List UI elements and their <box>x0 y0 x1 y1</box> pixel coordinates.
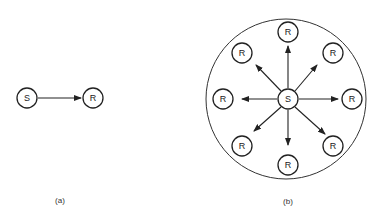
diagram-canvas: S R (a) S R R <box>0 0 384 216</box>
receiver-node: R <box>83 88 103 108</box>
receiver-label: R <box>239 48 246 58</box>
receiver-node-bottom-left: R <box>232 136 252 156</box>
caption-a: (a) <box>55 196 65 205</box>
receiver-node-top: R <box>278 22 298 42</box>
receiver-node-bottom-right: R <box>323 136 343 156</box>
receiver-node-top-left: R <box>232 43 252 63</box>
diagram-b: S R R R R R R R <box>206 19 366 206</box>
receiver-label: R <box>220 94 227 104</box>
source-label: S <box>24 93 30 103</box>
source-node: S <box>278 89 298 109</box>
receiver-label: R <box>90 93 97 103</box>
receiver-label: R <box>239 141 246 151</box>
source-node: S <box>17 88 37 108</box>
receiver-label: R <box>330 141 337 151</box>
arrow-to-top-left <box>256 65 281 91</box>
receiver-node-left: R <box>213 89 233 109</box>
arrow-to-bottom-left <box>254 107 281 131</box>
receiver-label: R <box>330 48 337 58</box>
caption-b: (b) <box>283 197 293 206</box>
receiver-label: R <box>349 94 356 104</box>
receiver-node-top-right: R <box>323 43 343 63</box>
arrow-to-bottom-right <box>295 107 325 134</box>
source-label: S <box>285 94 291 104</box>
arrow-to-top-right <box>295 65 317 91</box>
receiver-label: R <box>285 27 292 37</box>
receiver-node-right: R <box>342 89 362 109</box>
diagram-a: S R (a) <box>17 88 103 205</box>
receiver-label: R <box>285 160 292 170</box>
receiver-node-bottom: R <box>278 155 298 175</box>
